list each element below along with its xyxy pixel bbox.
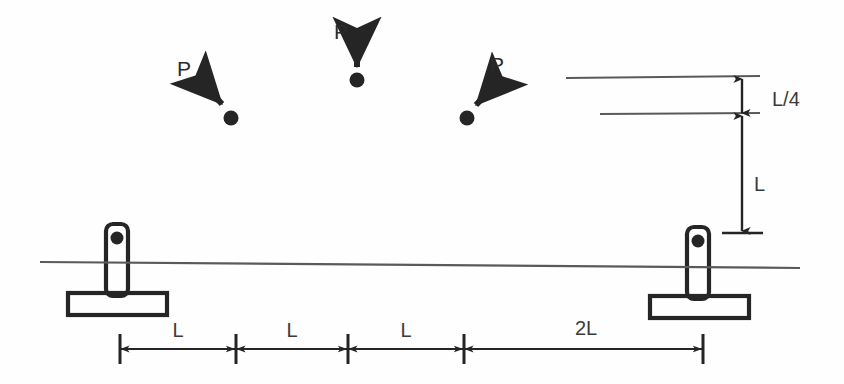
support-left [68,224,167,315]
load-middle: P [334,20,365,88]
horizontal-dimension-group: L L L 2L [120,317,703,364]
vertical-dimension-group: L/4 L [722,79,800,233]
support-right-pin [692,235,705,248]
load-right-application-point [460,111,475,126]
dim-seg-1-label: L [172,319,183,341]
reference-line-group [566,76,760,114]
load-right: P [460,53,505,126]
load-arrow-group: P P P [177,20,504,126]
load-left-label: P [177,57,191,80]
upper-reference-line [566,76,760,78]
dim-seg-4-label: 2L [575,317,597,339]
load-left-arrow-shaft [196,76,222,104]
support-left-pin [111,232,124,245]
load-left: P [177,57,239,126]
dim-l-label: L [754,173,765,195]
dim-l-over-4-label: L/4 [772,88,800,110]
load-middle-application-point [350,73,365,88]
load-left-application-point [224,111,239,126]
dim-seg-2-label: L [286,319,297,341]
load-right-label: P [490,53,504,76]
beam-diagram-svg: P P P L/4 [0,0,844,384]
support-right [650,227,749,318]
lower-reference-line [600,113,760,114]
load-middle-label: P [334,20,348,43]
support-group [68,224,749,318]
load-right-arrow-shaft [476,80,499,105]
beam-diagram-canvas: P P P L/4 [0,0,844,384]
dim-seg-3-label: L [400,319,411,341]
